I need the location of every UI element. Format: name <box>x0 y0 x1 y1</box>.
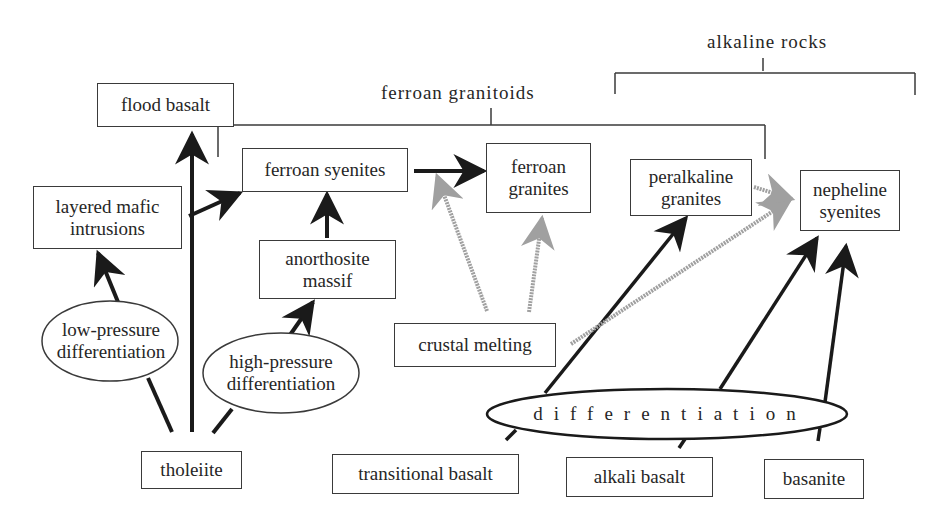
connector-layer <box>0 0 941 522</box>
ferroan-granites-line2: granites <box>508 178 568 200</box>
nepheline-line2: syenites <box>819 201 880 223</box>
low-pressure-line2: differentiation <box>57 341 165 363</box>
ferroan-granites-box: ferroan granites <box>486 143 591 213</box>
high-pressure-line1: high-pressure <box>229 351 332 373</box>
differentiation-label: differentiation <box>520 400 820 428</box>
transitional-basalt-box: transitional basalt <box>332 454 519 494</box>
ferroan-syenites-label: ferroan syenites <box>265 159 386 181</box>
low-pressure-differentiation-label: low-pressure differentiation <box>44 312 178 370</box>
anorthosite-massif-box: anorthosite massif <box>259 240 396 299</box>
peralkaline-granites-box: peralkaline granites <box>630 159 752 216</box>
low-pressure-line1: low-pressure <box>62 319 160 341</box>
petrogenesis-diagram: ferroan granitoids alkaline rocks flood … <box>0 0 941 522</box>
layered-mafic-intrusions-box: layered mafic intrusions <box>33 186 182 249</box>
flood-basalt-box: flood basalt <box>97 83 234 127</box>
alkaline-rocks-bracket <box>615 58 915 95</box>
high-pressure-differentiation-label: high-pressure differentiation <box>206 344 356 402</box>
alkali-basalt-label: alkali basalt <box>594 466 685 488</box>
tholeiite-label: tholeiite <box>160 459 222 481</box>
ferroan-granitoids-label: ferroan granitoids <box>381 82 535 104</box>
nepheline-line1: nepheline <box>813 179 887 201</box>
anorthosite-line2: massif <box>303 270 353 292</box>
flood-basalt-label: flood basalt <box>121 94 210 116</box>
alkali-basalt-box: alkali basalt <box>566 457 713 497</box>
ferroan-syenites-box: ferroan syenites <box>242 148 408 192</box>
tholeiite-box: tholeiite <box>141 451 242 489</box>
anorthosite-line1: anorthosite <box>285 248 369 270</box>
nepheline-syenites-box: nepheline syenites <box>800 170 900 231</box>
peralkaline-line1: peralkaline <box>649 166 733 188</box>
basanite-box: basanite <box>764 459 864 499</box>
high-pressure-line2: differentiation <box>227 373 335 395</box>
alkaline-rocks-label: alkaline rocks <box>707 31 827 53</box>
layered-mafic-line2: intrusions <box>70 218 145 240</box>
layered-mafic-line1: layered mafic <box>56 196 160 218</box>
transitional-basalt-label: transitional basalt <box>358 463 493 485</box>
differentiation-text: differentiation <box>533 403 806 425</box>
crustal-melting-label: crustal melting <box>418 334 531 356</box>
basanite-label: basanite <box>783 468 845 490</box>
crustal-melting-box: crustal melting <box>394 323 556 367</box>
peralkaline-line2: granites <box>661 188 721 210</box>
ferroan-granites-line1: ferroan <box>511 156 566 178</box>
